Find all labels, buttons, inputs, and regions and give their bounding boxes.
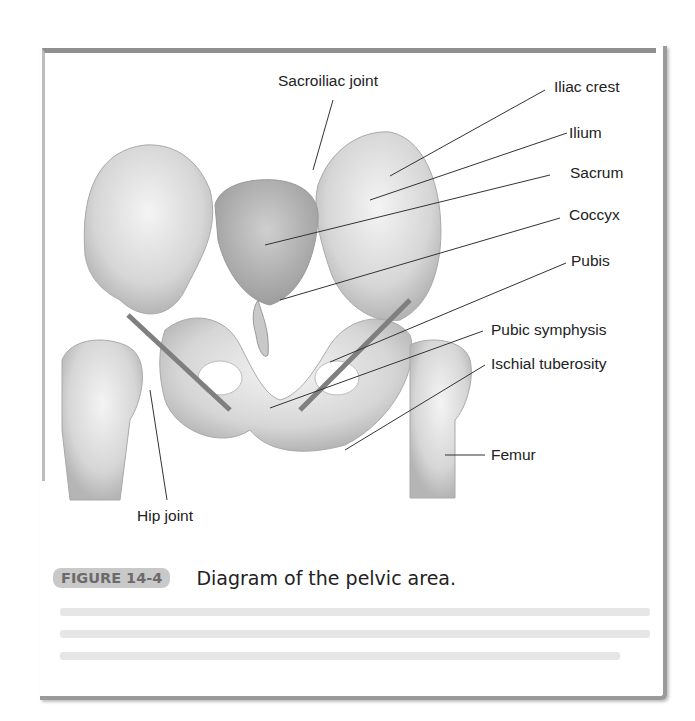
label-iliac-crest: Iliac crest [554, 78, 619, 96]
figure-number-badge: FIGURE 14-4 [53, 568, 170, 588]
faded-text-line [60, 630, 650, 638]
label-femur: Femur [491, 446, 536, 464]
figure-caption: FIGURE 14-4 Diagram of the pelvic area. [53, 567, 456, 589]
faded-text-line [60, 608, 650, 616]
label-sacrum: Sacrum [570, 164, 623, 182]
label-ischial-tuberosity: Ischial tuberosity [491, 355, 606, 373]
label-ilium: Ilium [569, 124, 602, 142]
faded-text-line [60, 652, 620, 660]
label-hip-joint: Hip joint [137, 507, 193, 525]
figure-caption-text: Diagram of the pelvic area. [196, 567, 456, 589]
label-pubic-symphysis: Pubic symphysis [491, 321, 606, 339]
label-pubis: Pubis [571, 252, 610, 270]
label-sacroiliac-joint: Sacroiliac joint [278, 72, 378, 90]
label-coccyx: Coccyx [569, 206, 620, 224]
